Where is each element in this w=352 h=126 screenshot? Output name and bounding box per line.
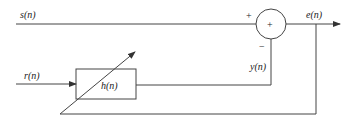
e-label: e(n) — [306, 9, 323, 21]
filter-label: h(n) — [101, 80, 118, 92]
adaptation-arrow — [60, 52, 135, 114]
summing-symbol: + — [267, 19, 273, 30]
minus-sign: − — [259, 41, 265, 52]
r-label: r(n) — [24, 70, 40, 82]
adaptive-filter-diagram: s(n) + + − e(n) y(n) r(n) h(n) — [0, 0, 352, 126]
s-label: s(n) — [20, 9, 36, 21]
y-label: y(n) — [249, 61, 267, 73]
plus-sign: + — [246, 10, 252, 21]
